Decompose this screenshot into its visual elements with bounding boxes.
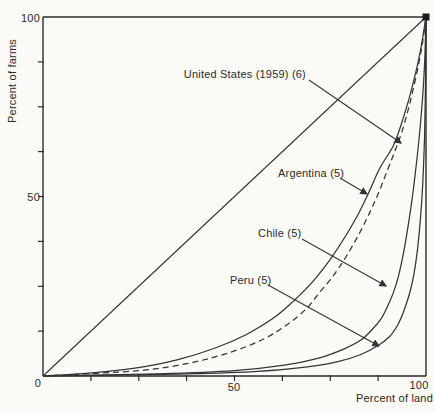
- x-tick-label-100: 100: [410, 379, 429, 391]
- x-axis-title: Percent of land: [356, 392, 433, 404]
- label-peru: Peru (5): [230, 274, 271, 286]
- arrow-peru: [268, 285, 379, 346]
- corner-marker-layer: [423, 14, 430, 21]
- y-axis-title: Percent of farms: [6, 39, 18, 123]
- label-chile: Chile (5): [258, 227, 301, 239]
- arrow-argentina: [340, 178, 367, 194]
- arrow-us: [309, 80, 401, 143]
- label-argentina: Argentina (5): [278, 167, 344, 179]
- chart-canvas: 100 50 0 50 100 Percent of land Percent …: [0, 0, 435, 412]
- lorenz-curve-figure: 100 50 0 50 100 Percent of land Percent …: [0, 0, 435, 412]
- corner-marker: [423, 14, 430, 21]
- y-tick-label-50: 50: [27, 191, 40, 203]
- y-tick-label-100: 100: [21, 12, 40, 24]
- label-united-states: United States (1959) (6): [184, 68, 306, 80]
- x-tick-label-50: 50: [228, 381, 241, 393]
- origin-tick-label: 0: [35, 377, 41, 389]
